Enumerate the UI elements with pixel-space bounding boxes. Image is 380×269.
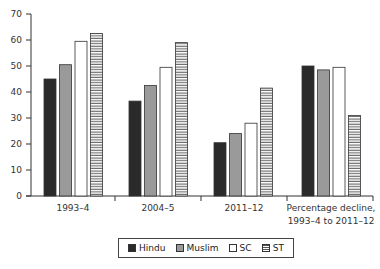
legend-item-muslim: Muslim <box>176 243 219 253</box>
hindu-swatch-icon <box>128 244 136 252</box>
bars <box>44 34 361 197</box>
bar-chart: 010203040506070 1993–4 2004–5 2011–12 Pe… <box>0 0 380 269</box>
legend-item-st: ST <box>262 243 284 253</box>
category-labels: 1993–4 2004–5 2011–12 Percentage decline… <box>56 203 375 226</box>
bar-st <box>91 34 103 197</box>
bar-sc <box>245 123 257 196</box>
bar-sc <box>333 67 345 196</box>
category-label-decline-line1: Percentage decline, <box>287 203 376 213</box>
category-label-decline-line2: 1993–4 to 2011–12 <box>288 216 375 226</box>
muslim-swatch-icon <box>176 244 184 252</box>
y-tick-label: 70 <box>11 9 23 19</box>
sc-swatch-icon <box>229 244 237 252</box>
st-swatch-icon <box>262 244 270 252</box>
bar-muslim <box>318 70 330 196</box>
y-tick-label: 0 <box>16 191 22 201</box>
category-label-2004-5: 2004–5 <box>141 203 174 213</box>
legend-label-hindu: Hindu <box>139 243 165 253</box>
category-label-2011-12: 2011–12 <box>225 203 264 213</box>
bar-st <box>176 43 188 196</box>
x-ticks <box>115 196 373 201</box>
legend-item-sc: SC <box>229 243 252 253</box>
bar-muslim <box>145 86 157 197</box>
y-tick-label: 50 <box>11 61 23 71</box>
bar-sc <box>160 67 172 196</box>
legend-label-st: ST <box>273 243 284 253</box>
bar-hindu <box>302 66 314 196</box>
bar-muslim <box>230 134 242 196</box>
bar-hindu <box>44 79 56 196</box>
category-label-1993-4: 1993–4 <box>56 203 89 213</box>
y-tick-label: 40 <box>11 87 23 97</box>
legend: Hindu Muslim SC ST <box>118 238 294 258</box>
y-tick-label: 20 <box>11 139 23 149</box>
bar-hindu <box>214 143 226 196</box>
legend-label-muslim: Muslim <box>187 243 219 253</box>
legend-item-hindu: Hindu <box>128 243 165 253</box>
bar-st <box>261 88 273 196</box>
bar-hindu <box>129 101 141 196</box>
y-tick-label: 60 <box>11 35 23 45</box>
legend-label-sc: SC <box>240 243 252 253</box>
y-tick-label: 10 <box>11 165 23 175</box>
bar-sc <box>75 41 87 196</box>
y-ticks: 010203040506070 <box>11 9 31 201</box>
y-tick-label: 30 <box>11 113 23 123</box>
bar-muslim <box>60 65 72 196</box>
bar-st <box>349 115 361 196</box>
